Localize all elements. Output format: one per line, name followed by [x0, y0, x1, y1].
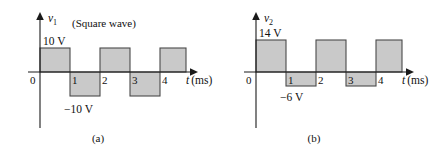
y-axis-label-b: v2: [264, 12, 273, 27]
x-tick-label-3: 3: [132, 74, 138, 86]
origin-label-a: 0: [30, 74, 36, 86]
x-tick-label-2: 2: [102, 74, 108, 86]
pulse-positive-1: [100, 48, 130, 72]
x-tick-label-4: 4: [378, 74, 384, 86]
y-axis-arrowhead: [36, 12, 44, 20]
positive-amplitude-label-b: 14 V: [259, 27, 282, 39]
pulse-positive-2: [376, 40, 402, 72]
chart-svg-b: v2 14 V −6 V 0 1 2 3 4 t(ms) (b): [216, 0, 433, 155]
pulse-positive-1: [316, 40, 346, 72]
x-axis-label-a: t(ms): [186, 74, 212, 87]
x-tick-label-2: 2: [318, 74, 324, 86]
panel-caption-b: (b): [308, 132, 321, 145]
chart-panel-b: v2 14 V −6 V 0 1 2 3 4 t(ms) (b): [216, 0, 432, 155]
x-axis-label-b: t(ms): [402, 74, 428, 87]
negative-amplitude-label-b: −6 V: [280, 91, 304, 103]
positive-amplitude-label-a: 10 V: [43, 35, 66, 47]
figure-container: v1 (Square wave) 10 V −10 V 0 1 2 3 4 t(…: [0, 0, 433, 155]
pulse-positive-0: [256, 40, 286, 72]
x-tick-label-4: 4: [162, 74, 168, 86]
y-axis-label-a: v1: [48, 12, 57, 27]
origin-label-b: 0: [246, 74, 252, 86]
y-axis-arrowhead: [252, 12, 260, 20]
square-wave-note: (Square wave): [72, 17, 136, 30]
panel-caption-a: (a): [92, 132, 105, 145]
x-tick-label-1: 1: [72, 74, 78, 86]
x-tick-label-3: 3: [348, 74, 354, 86]
x-tick-label-1: 1: [288, 74, 294, 86]
chart-svg-a: v1 (Square wave) 10 V −10 V 0 1 2 3 4 t(…: [0, 0, 216, 155]
negative-amplitude-label-a: −10 V: [64, 103, 94, 115]
pulse-positive-2: [160, 48, 186, 72]
pulse-positive-0: [40, 48, 70, 72]
chart-panel-a: v1 (Square wave) 10 V −10 V 0 1 2 3 4 t(…: [0, 0, 216, 155]
